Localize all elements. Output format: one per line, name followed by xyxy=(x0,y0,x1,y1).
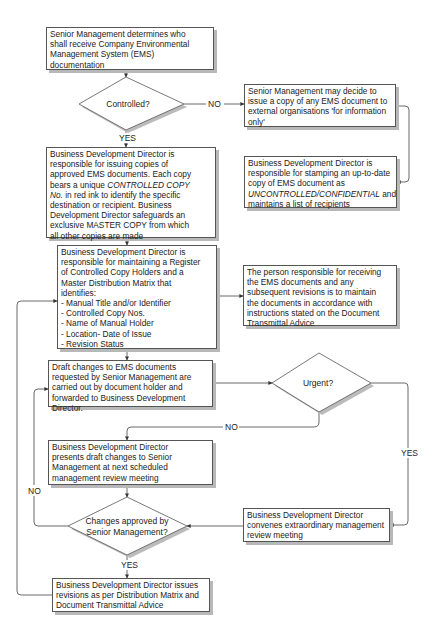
box-text-line: Business Development Director xyxy=(52,442,209,452)
box-text-line: The person responsible for receiving xyxy=(247,267,393,277)
box-text-line: Management at next scheduled xyxy=(52,462,209,472)
emphasis-text: UNCONTROLLED/CONFIDENTIAL xyxy=(248,189,380,199)
box-text-line: subsequent revisions is to maintain xyxy=(247,287,393,297)
emphasis-text: CONTROLLED COPY xyxy=(107,180,190,190)
box-text-line: identifies: xyxy=(61,288,213,298)
step-issue-revisions: Business Development Director issues rev… xyxy=(52,578,210,612)
edge-d2-yes-a xyxy=(371,383,408,448)
label-urgent-no: NO xyxy=(224,422,239,432)
box-text-line: bears a unique CONTROLLED COPY xyxy=(50,180,212,190)
edge-d2-no-a xyxy=(239,412,319,427)
box-text-line: destination or recipient. Business xyxy=(50,200,212,210)
box-text-line: management review meeting xyxy=(52,473,209,483)
box-text-line: shall receive Company Environmental xyxy=(50,39,210,49)
edge-d3-no-b xyxy=(34,389,48,485)
step-maintain-register: Business Development Director is respons… xyxy=(57,245,217,349)
box-text-line: responsible for issuing copies of xyxy=(50,159,212,169)
box-text-line: responsible for stamping an up-to-date xyxy=(248,168,393,178)
box-text-line: approved EMS documents. Each copy xyxy=(50,169,212,179)
step-draft-changes: Draft changes to EMS documents requested… xyxy=(48,360,213,407)
box-text-line: exclusive MASTER COPY from which xyxy=(50,220,212,230)
box-text-line: Draft changes to EMS documents xyxy=(52,362,209,372)
box-text-line: presents draft changes to Senior xyxy=(52,452,209,462)
box-text-fragment: bears a unique xyxy=(50,180,107,190)
step-issue-controlled-copies: Business Development Director is respons… xyxy=(46,147,216,238)
box-text-line: Senior Management may decide to xyxy=(248,86,392,96)
box-text-line: - Revision Status xyxy=(61,339,213,349)
box-text-line: Transmittal Advice xyxy=(247,318,393,328)
label-urgent-yes: YES xyxy=(400,448,419,458)
box-text-line: external organisations 'for information xyxy=(248,106,392,116)
label-approved-no: NO xyxy=(27,486,42,496)
box-text-line: copy of EMS document as xyxy=(248,178,393,188)
step-external-copy: Senior Management may decide to issue a … xyxy=(244,84,396,127)
box-text-line: Director. xyxy=(52,403,209,413)
box-text-line: Business Development Director is xyxy=(248,158,393,168)
decision-urgent-text: Urgent? xyxy=(288,378,348,389)
step-holder-maintains-docs: The person responsible for receiving the… xyxy=(243,265,397,326)
box-text-line: Document Transmittal Advice xyxy=(56,600,206,610)
box-text-fragment: and xyxy=(380,189,396,199)
box-text-line: UNCONTROLLED/CONFIDENTIAL and xyxy=(248,189,393,199)
box-text-line: Master Distribution Matrix that xyxy=(61,278,213,288)
box-text-line: Business Development Director is xyxy=(61,247,213,257)
box-text-line: issue a copy of any EMS document to xyxy=(248,96,392,106)
box-text-line: - Controlled Copy Nos. xyxy=(61,308,213,318)
box-text-line: - Location- Date of Issue xyxy=(61,329,213,339)
label-approved-yes: YES xyxy=(120,560,139,570)
box-text-line: instructions stated on the Document xyxy=(247,308,393,318)
decision-changes-approved-text: Changes approved by Senior Management? xyxy=(77,516,177,537)
box-text-line: review meeting xyxy=(247,530,386,540)
decision-controlled-text: Controlled? xyxy=(88,99,168,110)
box-text-line: Business Development Director issues xyxy=(56,580,206,590)
box-text-line: only' xyxy=(248,117,392,127)
label-controlled-yes: YES xyxy=(118,133,137,143)
box-text-line: Management System (EMS) xyxy=(50,49,210,59)
box-text-line: the EMS documents and any xyxy=(247,277,393,287)
decision-text-line: Controlled? xyxy=(88,99,168,110)
edge-n2-n3 xyxy=(396,106,409,182)
edge-d2-no-b xyxy=(127,427,223,440)
box-text-line: responsible for maintaining a Register xyxy=(61,257,213,267)
label-controlled-no: NO xyxy=(207,99,222,109)
box-text-line: maintains a list of recipients xyxy=(248,199,393,209)
box-text-line: Business Development Director is xyxy=(50,149,212,159)
box-text-line: Business Development Director xyxy=(247,510,386,520)
box-text-line: of Controlled Copy Holders and a xyxy=(61,267,213,277)
box-text-fragment: in red ink to identify the specific xyxy=(63,190,181,200)
box-text-line: documentation xyxy=(50,60,210,70)
decision-text-line: Changes approved by xyxy=(77,516,177,527)
edge-d2-yes-b xyxy=(390,458,408,525)
box-text-line: revisions as per Distribution Matrix and xyxy=(56,590,206,600)
step-determine-recipients: Senior Management determines who shall r… xyxy=(46,27,214,70)
box-text-line: - Name of Manual Holder xyxy=(61,318,213,328)
step-extraordinary-meeting: Business Development Director convenes e… xyxy=(243,508,390,542)
emphasis-text: No. xyxy=(50,190,63,200)
box-text-line: convenes extraordinary management xyxy=(247,520,386,530)
box-text-line: Senior Management determines who xyxy=(50,29,210,39)
box-text-line: No. in red ink to identify the specific xyxy=(50,190,212,200)
edge-d3-no-a xyxy=(34,496,68,526)
box-text-line: Development Director safeguards an xyxy=(50,210,212,220)
box-text-line: carried out by document holder and xyxy=(52,382,209,392)
step-stamp-uncontrolled: Business Development Director is respons… xyxy=(244,156,397,208)
box-text-line: all other copies are made xyxy=(50,231,212,241)
box-text-line: forwarded to Business Development xyxy=(52,393,209,403)
decision-text-line: Senior Management? xyxy=(77,527,177,538)
box-text-line: the documents in accordance with xyxy=(247,298,393,308)
decision-text-line: Urgent? xyxy=(288,378,348,389)
step-present-draft-changes: Business Development Director presents d… xyxy=(48,440,213,485)
box-text-line: requested by Senior Management are xyxy=(52,372,209,382)
box-text-line: - Manual Title and/or Identifier xyxy=(61,298,213,308)
